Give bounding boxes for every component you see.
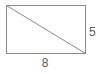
width-label: 8 bbox=[0, 57, 90, 69]
height-label: 5 bbox=[89, 26, 102, 38]
geometry-figure: 8 5 bbox=[0, 0, 102, 74]
diagonal-line bbox=[7, 6, 86, 54]
